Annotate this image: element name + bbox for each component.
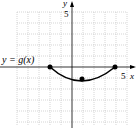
point	[80, 77, 85, 82]
graph: y 5 5 x y = g(x)	[0, 0, 138, 130]
x-axis-label: x	[129, 71, 134, 81]
y-tick-label: 5	[64, 9, 69, 19]
y-axis-arrow-icon	[70, 1, 74, 7]
point	[113, 65, 118, 70]
function-label: y = g(x)	[1, 54, 35, 66]
x-axis-arrow-icon	[130, 65, 136, 69]
point	[48, 65, 53, 70]
x-tick-label: 5	[121, 71, 126, 81]
y-axis-label: y	[62, 0, 67, 8]
